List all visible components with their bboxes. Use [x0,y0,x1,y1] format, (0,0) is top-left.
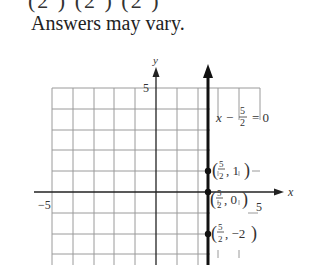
svg-text:2: 2 [240,117,245,128]
svg-text:(: ( [210,189,216,210]
y-axis [153,67,160,265]
tick-label-y-5: 5 [143,81,149,95]
svg-text:): ) [251,223,257,244]
point-label-5-2-1: ( 5 2 , 1 ) [212,159,250,181]
svg-text:5: 5 [240,105,245,116]
svg-text:, 0: , 0 [224,192,237,207]
svg-text:, 1: , 1 [226,163,239,178]
svg-text:x: x [215,110,222,125]
svg-text:): ) [242,189,248,210]
svg-text:(: ( [211,223,217,244]
line-arrow-icon [203,64,213,78]
tick-label-x-5: 5 [256,200,262,214]
svg-text:5: 5 [217,188,222,198]
svg-text:−: − [226,110,233,125]
x-axis-arrow-icon [274,189,284,196]
tick-label-x-neg5: −5 [38,198,51,212]
point-label-5-2-neg2: ( 5 2 , −2 ) [211,222,257,244]
svg-text:(: ( [212,160,218,181]
svg-text:, −2: , −2 [225,226,245,241]
y-axis-label: y [152,54,158,66]
svg-text:5: 5 [218,222,223,232]
svg-text:= 0: = 0 [252,110,269,125]
y-axis-arrow-icon [153,67,160,77]
svg-text:2: 2 [219,171,224,181]
svg-text:): ) [244,160,250,181]
svg-text:5: 5 [219,159,224,169]
svg-text:2: 2 [218,234,223,244]
svg-text:2: 2 [217,200,222,210]
x-axis-label: x [287,185,294,199]
equation-label: x − 5 2 = 0 [215,105,269,128]
point-label-5-2-0: ( 5 2 , 0 ) [210,188,248,210]
coordinate-graph: y x 5 −5 5 x − 5 2 = 0 ( 5 2 , 1 ) ( 5 2… [0,0,309,265]
point-5-2-1 [205,168,211,174]
